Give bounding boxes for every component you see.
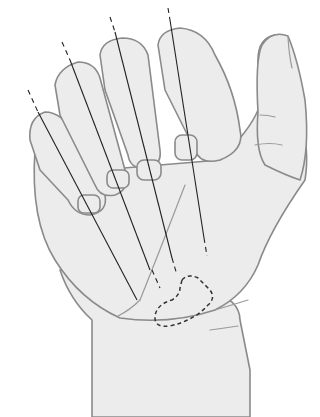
hand-diagram [0,0,320,417]
nail-index [175,135,197,160]
nail-middle [137,160,161,180]
thumb [257,34,307,180]
nail-little [78,195,100,213]
index-finger [158,28,241,161]
